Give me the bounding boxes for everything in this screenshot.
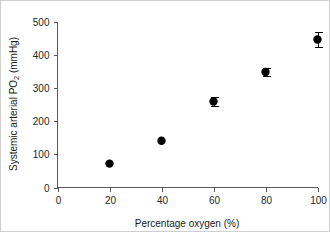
- scatter-plot: 0100200300400500 020406080100 Percentage…: [1, 1, 330, 232]
- y-tick-label: 100: [33, 149, 50, 160]
- x-tick-label: 0: [56, 195, 62, 206]
- y-axis-ticks: 0100200300400500: [33, 17, 58, 194]
- x-tick-label: 80: [261, 195, 273, 206]
- data-point-marker: [157, 136, 165, 144]
- x-tick-label: 20: [105, 195, 117, 206]
- y-axis-title-tail: (mmHg): [8, 37, 19, 76]
- x-tick-label: 40: [157, 195, 169, 206]
- data-point-marker: [209, 97, 217, 105]
- x-tick-label: 60: [209, 195, 221, 206]
- chart-figure: 0100200300400500 020406080100 Percentage…: [0, 0, 330, 232]
- y-axis-title-main: Systemic arterial PO: [8, 80, 19, 171]
- y-tick-label: 200: [33, 116, 50, 127]
- data-points: [105, 35, 321, 168]
- x-axis-title: Percentage oxygen (%): [135, 218, 240, 229]
- y-tick-label: 300: [33, 83, 50, 94]
- y-tick-label: 400: [33, 50, 50, 61]
- x-tick-label: 100: [310, 195, 327, 206]
- y-tick-label: 500: [33, 17, 50, 28]
- y-axis-title: Systemic arterial PO2 (mmHg): [8, 37, 21, 171]
- data-point-marker: [261, 68, 269, 76]
- data-point-marker: [313, 35, 321, 43]
- data-point-marker: [105, 159, 113, 167]
- x-axis-ticks: 020406080100: [56, 188, 328, 206]
- y-tick-label: 0: [44, 183, 50, 194]
